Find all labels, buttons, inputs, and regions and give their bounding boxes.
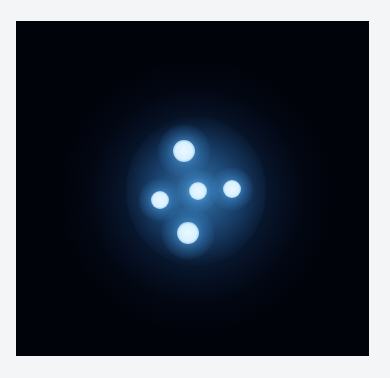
light-spot-right [223, 180, 241, 198]
light-spot-left [151, 191, 169, 209]
space-image [16, 21, 369, 356]
light-spot-bottom [177, 222, 199, 244]
caption [150, 360, 360, 372]
light-spot-center [189, 182, 207, 200]
light-spot-top [173, 140, 195, 162]
